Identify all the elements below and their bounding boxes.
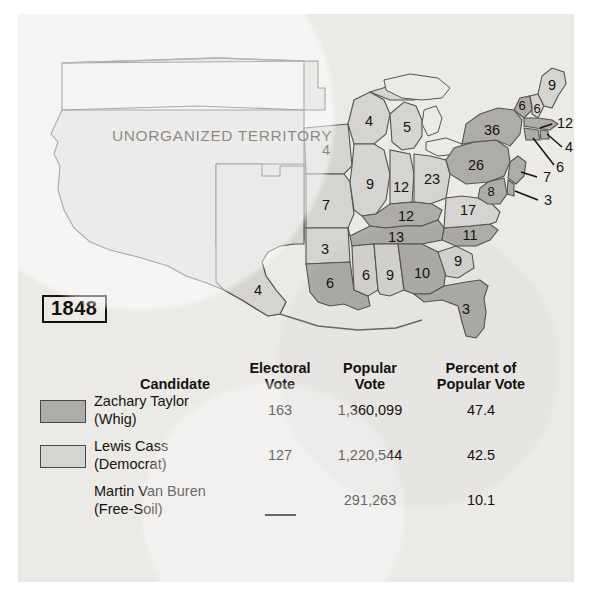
- popular-vote-value: 1,220,544: [318, 447, 422, 463]
- candidate-name: Martin Van Buren: [94, 483, 206, 499]
- svg-text:11: 11: [462, 227, 477, 243]
- svg-text:7: 7: [543, 169, 551, 185]
- candidate-name: Zachary Taylor: [94, 393, 189, 409]
- svg-text:6: 6: [556, 159, 564, 175]
- svg-text:9: 9: [548, 77, 556, 93]
- electoral-vote-value: 163: [233, 402, 327, 418]
- header-candidate: Candidate: [100, 376, 250, 392]
- svg-text:5: 5: [403, 119, 411, 135]
- svg-text:6: 6: [533, 101, 540, 116]
- percent-value: 47.4: [410, 402, 552, 418]
- results-table: Candidate Electoral Vote Popular Vote Pe…: [18, 348, 574, 527]
- table-row: Lewis Cass (Democrat) 127 1,220,544 42.5: [18, 437, 574, 482]
- candidate-name-cell: Lewis Cass (Democrat): [94, 438, 244, 473]
- header-percent: Percent of Popular Vote: [410, 360, 552, 392]
- electoral-vote-dash: [233, 502, 327, 520]
- legend-swatch-cass: [40, 445, 86, 468]
- svg-text:23: 23: [424, 171, 440, 187]
- svg-text:9: 9: [386, 267, 394, 283]
- svg-text:6: 6: [518, 98, 525, 113]
- header-popular-vote-line2: Vote: [355, 376, 385, 392]
- svg-text:12: 12: [393, 179, 409, 195]
- svg-text:8: 8: [487, 184, 494, 199]
- header-electoral-vote-line1: Electoral: [249, 360, 310, 376]
- svg-text:26: 26: [468, 157, 484, 173]
- svg-text:6: 6: [326, 275, 334, 291]
- svg-text:9: 9: [366, 176, 374, 192]
- candidate-party: (Democrat): [94, 456, 244, 474]
- header-electoral-vote: Electoral Vote: [233, 360, 327, 392]
- svg-text:12: 12: [557, 115, 573, 131]
- legend-swatch-taylor: [40, 400, 86, 423]
- unorganized-territory-label: UNORGANIZED TERRITORY: [112, 127, 332, 145]
- percent-value: 10.1: [410, 492, 552, 508]
- table-row: Zachary Taylor (Whig) 163 1,360,099 47.4: [18, 392, 574, 437]
- svg-text:13: 13: [388, 229, 404, 245]
- popular-vote-value: 1,360,099: [318, 402, 422, 418]
- svg-text:36: 36: [484, 122, 500, 138]
- header-percent-line2: Popular Vote: [437, 376, 525, 392]
- table-row: Martin Van Buren (Free-Soil) 291,263 10.…: [18, 482, 574, 527]
- header-popular-vote: Popular Vote: [318, 360, 422, 392]
- header-popular-vote-line1: Popular: [343, 360, 397, 376]
- candidate-name: Lewis Cass: [94, 438, 168, 454]
- svg-text:6: 6: [362, 267, 370, 283]
- figure-page: .st{stroke:#55534f;stroke-width:1.1;} .t…: [18, 14, 574, 582]
- popular-vote-value: 291,263: [318, 492, 422, 508]
- svg-text:9: 9: [454, 253, 462, 269]
- svg-text:4: 4: [565, 139, 573, 155]
- candidate-party: (Whig): [94, 411, 244, 429]
- svg-text:10: 10: [414, 265, 430, 281]
- header-electoral-vote-line2: Vote: [265, 376, 295, 392]
- svg-text:12: 12: [398, 208, 414, 224]
- candidate-party: (Free-Soil): [94, 501, 244, 519]
- svg-text:3: 3: [462, 301, 470, 317]
- candidate-name-cell: Zachary Taylor (Whig): [94, 393, 244, 428]
- svg-text:3: 3: [321, 241, 329, 257]
- year-label: 1848: [42, 295, 107, 323]
- svg-text:4: 4: [254, 282, 262, 298]
- electoral-map: .st{stroke:#55534f;stroke-width:1.1;} .t…: [18, 14, 574, 344]
- svg-text:7: 7: [322, 197, 330, 213]
- header-percent-line1: Percent of: [446, 360, 517, 376]
- svg-text:17: 17: [460, 202, 476, 218]
- electoral-vote-value: 127: [233, 447, 327, 463]
- svg-text:3: 3: [544, 192, 552, 208]
- svg-text:4: 4: [365, 113, 373, 129]
- percent-value: 42.5: [410, 447, 552, 463]
- candidate-name-cell: Martin Van Buren (Free-Soil): [94, 483, 244, 518]
- table-header-row: Candidate Electoral Vote Popular Vote Pe…: [18, 348, 574, 392]
